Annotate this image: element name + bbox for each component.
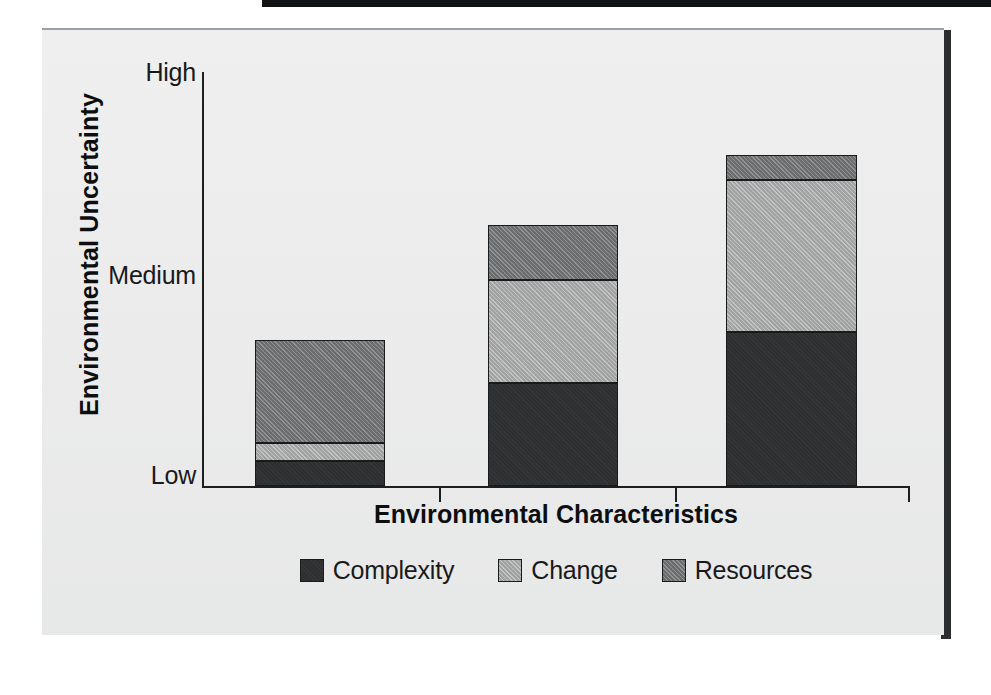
bar-segment-resources[interactable]: [255, 340, 385, 443]
legend-label-resources: Resources: [695, 558, 813, 583]
legend-item-change[interactable]: Change: [498, 558, 617, 583]
bar-segment-resources[interactable]: [488, 225, 618, 280]
stacked-bar-category-2[interactable]: [488, 225, 618, 486]
legend-label-change: Change: [531, 558, 617, 583]
legend-item-resources[interactable]: Resources: [662, 558, 813, 583]
y-tick-label-medium: Medium: [108, 263, 196, 288]
x-axis-line: [202, 486, 910, 488]
legend-label-complexity: Complexity: [333, 558, 455, 583]
bar-segment-change[interactable]: [255, 443, 385, 461]
y-tick-label-high: High: [145, 60, 196, 85]
scan-page: High Medium Low Environmental Uncertaint…: [0, 0, 991, 695]
bar-segment-complexity[interactable]: [255, 461, 385, 486]
bar-segment-complexity[interactable]: [726, 332, 857, 486]
bar-segment-complexity[interactable]: [488, 383, 618, 486]
legend-swatch-change-icon: [498, 559, 522, 582]
plot-area: High Medium Low Environmental Uncertaint…: [42, 30, 944, 637]
chart-legend: Complexity Change Resources: [202, 558, 910, 583]
legend-swatch-resources-icon: [662, 559, 686, 582]
bar-segment-change[interactable]: [488, 280, 618, 383]
bar-segment-change[interactable]: [726, 180, 857, 332]
scan-top-edge-bar: [262, 0, 991, 7]
y-axis-title: Environmental Uncertainty: [75, 90, 104, 420]
stacked-bar-category-3[interactable]: [726, 155, 857, 486]
legend-swatch-complexity-icon: [300, 559, 324, 582]
bar-segment-resources[interactable]: [726, 155, 857, 180]
stacked-bar-category-1[interactable]: [255, 340, 385, 486]
figure-container: High Medium Low Environmental Uncertaint…: [42, 28, 944, 635]
x-axis-title: Environmental Characteristics: [202, 500, 910, 529]
y-tick-label-low: Low: [151, 463, 196, 488]
y-axis-line: [202, 72, 204, 487]
legend-item-complexity[interactable]: Complexity: [300, 558, 455, 583]
